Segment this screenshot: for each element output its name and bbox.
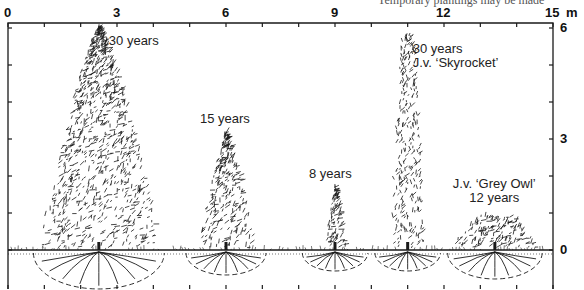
- x-axis-unit-label: m: [566, 6, 578, 20]
- foliage-strokes: [455, 212, 538, 248]
- root-line: [454, 252, 495, 259]
- x-axis-tick-label: 0: [4, 6, 11, 20]
- x-axis-tick-label: 15: [545, 6, 559, 20]
- plant-label-line: 15 years: [200, 112, 250, 126]
- foliage-strokes: [42, 24, 159, 248]
- plant-label-line: 8 years: [309, 167, 352, 181]
- plant-label-juniper-15: 15 years: [200, 112, 250, 126]
- plant-label-juniper-30: 30 years: [109, 34, 159, 48]
- root-line: [226, 252, 261, 258]
- plant-label-skyrocket-30: 30 yearsJ.v. ‘Skyrocket’: [413, 42, 499, 70]
- foliage-strokes: [201, 127, 254, 247]
- plant-label-line: 12 years: [453, 191, 536, 205]
- foliage-strokes: [326, 184, 349, 247]
- root-line: [99, 252, 118, 284]
- x-axis-tick-label: 6: [222, 6, 229, 20]
- plant-label-line: 30 years: [413, 42, 499, 56]
- plant-label-line: 30 years: [109, 34, 159, 48]
- y-axis-tick-label: 6: [560, 21, 567, 35]
- y-axis-tick-label: 3: [560, 132, 567, 146]
- x-axis-tick-label: 3: [113, 6, 120, 20]
- y-axis-tick-label: 0: [560, 243, 567, 257]
- root-line: [191, 252, 226, 258]
- x-axis-tick-label: 12: [436, 6, 450, 20]
- root-line: [495, 252, 536, 259]
- plant-label-grey-owl-12: J.v. ‘Grey Owl’12 years: [453, 177, 536, 205]
- plant-label-line: J.v. ‘Grey Owl’: [453, 177, 536, 191]
- x-axis-tick-label: 9: [331, 6, 338, 20]
- juniper-growth-diagram: Temporary plantings may be made 03691215…: [0, 0, 584, 290]
- caption-fragment: Temporary plantings may be made: [378, 0, 544, 8]
- plant-label-juniper-8: 8 years: [309, 167, 352, 181]
- plant-label-line: J.v. ‘Skyrocket’: [413, 56, 499, 70]
- root-line: [80, 252, 99, 284]
